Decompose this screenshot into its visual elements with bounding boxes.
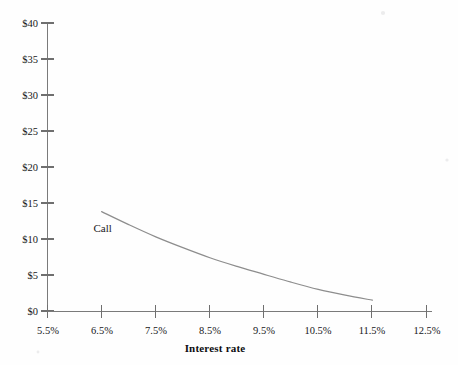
y-tick-label-30: $30 [22, 90, 38, 101]
x-tick-label-6-5: 6.5% [91, 325, 113, 336]
scan-artifacts [37, 11, 449, 354]
x-tick-label-10-5: 10.5% [304, 325, 331, 336]
x-tick-label-5-5: 5.5% [37, 325, 59, 336]
y-tick-label-5: $5 [28, 270, 39, 281]
y-tick-label-10: $10 [22, 234, 38, 245]
y-tick-label-40: $40 [22, 18, 38, 29]
y-axis-tick-labels: $0 $5 $10 $15 $20 $25 $30 $35 $40 [22, 18, 38, 317]
x-tick-label-7-5: 7.5% [145, 325, 167, 336]
x-axis-title: Interest rate [185, 342, 246, 354]
y-tick-label-20: $20 [22, 162, 38, 173]
call-series-annotation: Call [94, 222, 112, 234]
y-tick-label-15: $15 [22, 198, 38, 209]
x-axis: 5.5% 6.5% 7.5% 8.5% 9.5% 10.5% 11.5% 12.… [37, 305, 441, 354]
call-value-curve [102, 212, 373, 301]
chart-figure: $0 $5 $10 $15 $20 $25 $30 $35 $40 [0, 0, 458, 365]
x-tick-label-12-5: 12.5% [413, 325, 440, 336]
y-tick-label-25: $25 [22, 126, 38, 137]
x-tick-label-9-5: 9.5% [253, 325, 275, 336]
chart-canvas: $0 $5 $10 $15 $20 $25 $30 $35 $40 [0, 0, 458, 365]
x-tick-label-11-5: 11.5% [359, 325, 386, 336]
x-axis-tick-labels: 5.5% 6.5% 7.5% 8.5% 9.5% 10.5% 11.5% 12.… [37, 325, 441, 336]
y-axis: $0 $5 $10 $15 $20 $25 $30 $35 $40 [22, 18, 54, 317]
series-call: Call [94, 212, 373, 301]
y-tick-label-35: $35 [22, 54, 38, 65]
y-tick-label-0: $0 [28, 306, 39, 317]
x-tick-label-8-5: 8.5% [199, 325, 221, 336]
